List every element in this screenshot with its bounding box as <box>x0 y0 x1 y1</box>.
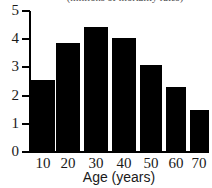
y-axis-tick <box>22 66 30 68</box>
bar-age-40 <box>112 38 136 152</box>
bar-age-20 <box>56 43 80 152</box>
bar-age-10 <box>31 80 55 152</box>
y-axis-tick <box>22 95 30 97</box>
y-axis-tick <box>22 38 30 40</box>
y-axis-tick-label: 3 <box>0 59 19 74</box>
bar-chart-figure: (millions of mortality rates) 0 1 2 3 4 … <box>0 0 212 188</box>
y-axis-tick <box>22 151 30 153</box>
bar-age-60 <box>166 87 186 152</box>
y-axis-tick-label: 2 <box>0 88 19 103</box>
bar-age-30 <box>84 27 108 152</box>
y-axis-tick-label: 0 <box>0 144 19 159</box>
x-axis-tick-label: 70 <box>186 155 212 171</box>
y-axis-tick-label: 5 <box>0 3 19 18</box>
plot-area: 0 1 2 3 4 5 10 20 30 40 50 60 70 Age (ye… <box>0 0 212 188</box>
y-axis-tick-label: 1 <box>0 116 19 131</box>
y-axis-tick-label: 4 <box>0 31 19 46</box>
bar-age-70 <box>190 110 209 152</box>
x-axis-title: Age (years) <box>29 170 209 185</box>
x-axis-tick-label: 10 <box>30 155 56 171</box>
bar-age-50 <box>140 65 162 152</box>
x-axis-tick-label: 20 <box>55 155 81 171</box>
y-axis-tick <box>22 123 30 125</box>
y-axis-tick <box>22 10 30 12</box>
